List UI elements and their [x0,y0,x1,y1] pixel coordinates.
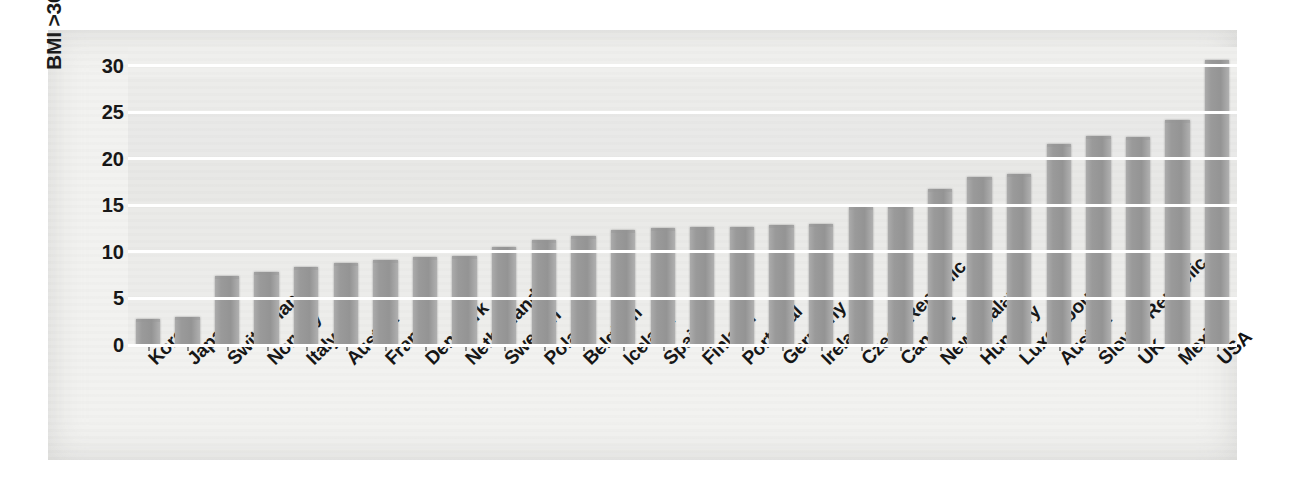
gridline [128,297,1237,300]
bar [849,207,873,345]
bar [254,272,278,345]
x-axis-labels: KoreaJapanSwitzerlandNorwayItalyAustriaF… [128,348,1237,488]
bar [888,206,912,345]
bar [452,256,476,345]
bar [928,189,952,345]
chart-figure: BMI >30 (% population > 15 years) 051015… [0,0,1301,490]
bar [690,227,714,345]
y-tick-label: 5 [64,287,124,310]
plot-area: 051015202530 [128,47,1237,345]
y-tick-label: 10 [64,240,124,263]
bar [215,276,239,345]
bar [373,260,397,345]
y-tick-label: 30 [64,54,124,77]
bar [730,227,754,345]
bar [809,224,833,345]
bar [769,225,793,345]
axis-baseline [128,344,1237,347]
bar [1086,136,1110,345]
bar [1047,144,1071,345]
bar [1126,137,1150,345]
y-tick-label: 25 [64,101,124,124]
bar-series [128,47,1237,345]
bar [1165,120,1189,345]
y-tick-label: 20 [64,147,124,170]
bar [136,319,160,345]
figure-panel: BMI >30 (% population > 15 years) 051015… [48,30,1237,460]
bar [967,177,991,345]
gridline [128,204,1237,207]
gridline [128,111,1237,114]
bar [1205,60,1229,345]
bar [651,228,675,345]
bar [611,230,635,345]
gridline [128,250,1237,253]
y-tick-label: 0 [64,334,124,357]
y-tick-label: 15 [64,194,124,217]
bar [175,317,199,345]
gridline [128,64,1237,67]
y-axis-title-bold: BMI >30 [42,0,66,70]
bar [334,263,358,345]
bar [532,240,556,345]
gridline [128,157,1237,160]
bar [1007,174,1031,345]
bar [413,257,437,345]
bar [294,267,318,345]
